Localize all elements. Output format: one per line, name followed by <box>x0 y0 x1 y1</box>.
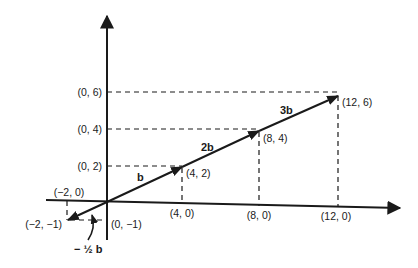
x-tick-label: (8, 0) <box>247 209 272 221</box>
neg-x-label: (−2, 0) <box>54 186 85 198</box>
y-tick-label: (0, 4) <box>77 123 102 135</box>
vector-label: b <box>137 171 144 183</box>
neg-y-label: (0, −1) <box>111 218 142 230</box>
vector-neg-half-b <box>68 202 107 220</box>
vector-label: − ½ b <box>74 243 103 255</box>
vector-3b <box>259 96 338 131</box>
y-tick-label: (0, 6) <box>77 86 102 98</box>
vector-2b <box>182 131 259 167</box>
x-tick-label: (4, 0) <box>170 207 195 219</box>
y-tick-label: (0, 2) <box>77 160 102 172</box>
vector-label: 3b <box>280 104 293 116</box>
pointer-arrow <box>88 215 93 240</box>
point-label: (4, 2) <box>186 167 211 179</box>
point-label: (8, 4) <box>263 132 288 144</box>
vector-label: 2b <box>201 141 214 153</box>
vector-diagram: (0, 6) (0, 4) (0, 2) (4, 0) (8, 0) (12, … <box>0 0 418 268</box>
x-tick-label: (12, 0) <box>321 210 351 222</box>
point-label: (12, 6) <box>342 96 372 108</box>
vector-b <box>107 167 182 202</box>
point-label: (−2, −1) <box>25 218 62 230</box>
x-axis <box>46 200 400 208</box>
